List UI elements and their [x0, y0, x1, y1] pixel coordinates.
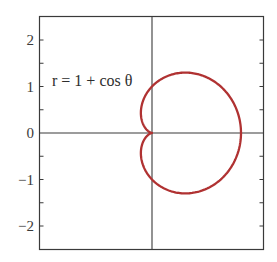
- equation-annotation: r = 1 + cos θ: [52, 72, 132, 89]
- y-tick-label: −1: [18, 172, 34, 188]
- y-tick-label: 2: [27, 32, 35, 48]
- cardioid-plot: −2−1012 r = 1 + cos θ: [0, 0, 277, 262]
- y-tick-label: 0: [27, 125, 35, 141]
- y-tick-label: −2: [18, 218, 34, 234]
- y-tick-label: 1: [27, 79, 35, 95]
- y-axis-tick-labels: −2−1012: [18, 32, 34, 234]
